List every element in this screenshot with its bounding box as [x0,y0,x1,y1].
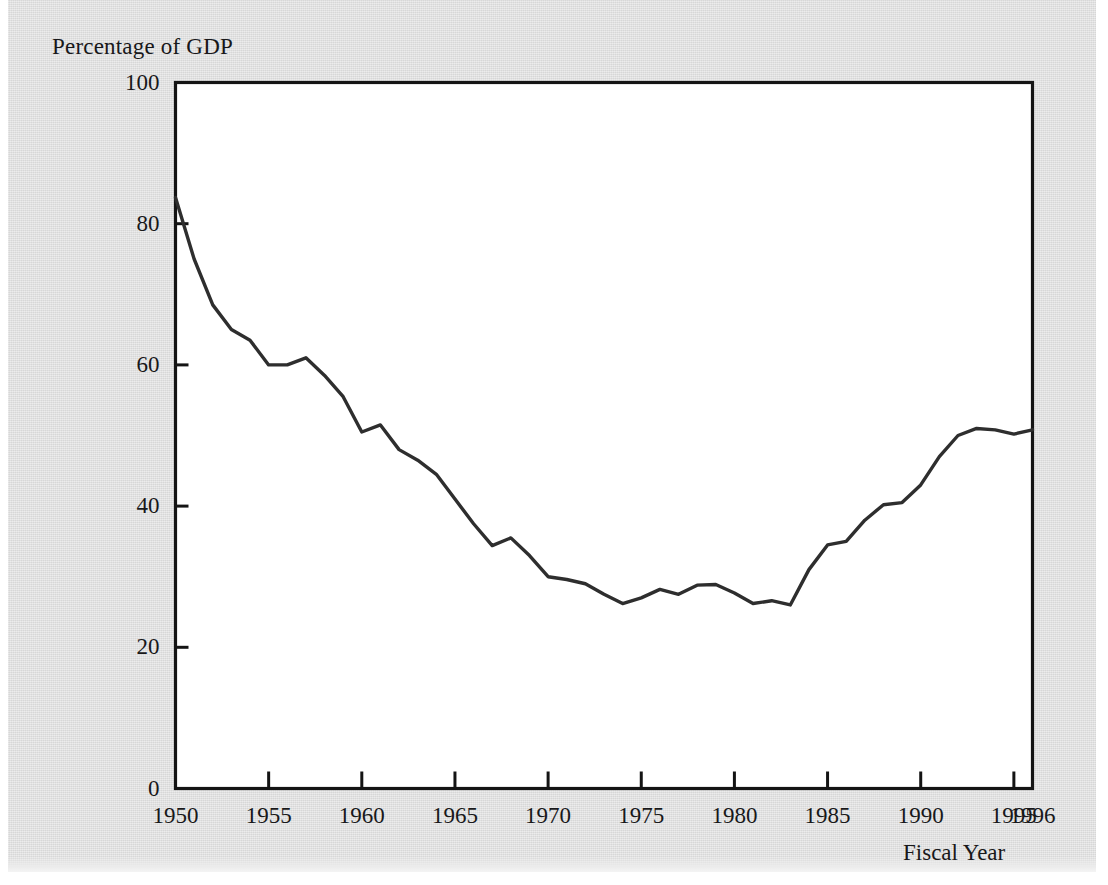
y-tick-label: 80 [90,211,160,237]
x-axis-title: Fiscal Year [903,840,1005,866]
y-tick-label: 40 [90,493,160,519]
plot-area-background [176,83,1033,789]
x-tick-label: 1950 [131,803,221,829]
x-tick-label: 1970 [503,803,593,829]
y-tick-label: 20 [90,634,160,660]
y-tick-label: 100 [90,70,160,96]
x-tick-label: 1960 [317,803,407,829]
x-tick-label: 1996 [988,803,1078,829]
x-tick-label: 1965 [410,803,500,829]
x-tick-label: 1975 [596,803,686,829]
figure-page: Percentage of GDP Fiscal Year 0204060801… [0,0,1108,885]
x-tick-label: 1955 [224,803,314,829]
chart-figure: Percentage of GDP Fiscal Year 0204060801… [0,0,1108,885]
x-tick-label: 1985 [783,803,873,829]
x-tick-label: 1980 [689,803,779,829]
x-tick-label: 1990 [876,803,966,829]
y-tick-label: 0 [90,776,160,802]
line-chart-plot [0,0,1108,885]
y-tick-label: 60 [90,352,160,378]
y-axis-title: Percentage of GDP [52,34,233,60]
